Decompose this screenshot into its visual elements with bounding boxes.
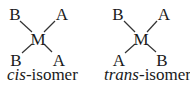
- cis-metal-center: M: [30, 31, 45, 48]
- cis-caption-suffix: -isomer: [26, 65, 78, 84]
- trans-isomer-diagram: B A M A B trans-isomer: [95, 0, 190, 89]
- cis-ligand-top-right: A: [56, 6, 68, 23]
- cis-ligand-top-left: B: [9, 6, 20, 23]
- cis-isomer-diagram: B A M B A cis-isomer: [0, 0, 95, 89]
- trans-caption-prefix: trans: [104, 65, 139, 84]
- trans-caption: trans-isomer: [104, 66, 190, 83]
- trans-metal-center: M: [133, 31, 148, 48]
- trans-ligand-top-right: A: [158, 6, 170, 23]
- trans-ligand-top-left: B: [112, 6, 123, 23]
- cis-caption: cis-isomer: [7, 66, 78, 83]
- trans-caption-suffix: -isomer: [139, 65, 190, 84]
- cis-caption-prefix: cis: [7, 65, 26, 84]
